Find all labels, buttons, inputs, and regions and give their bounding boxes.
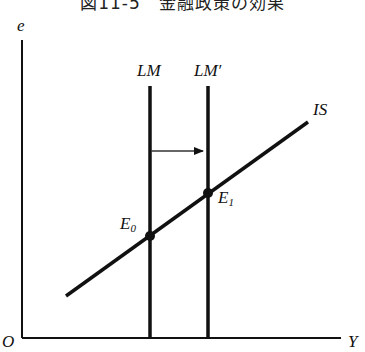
lm-label: LM: [136, 61, 161, 80]
is-curve: [66, 122, 308, 296]
islm-diagram: e Y O LM LM′ IS E0 E1: [0, 0, 365, 352]
x-axis-label: Y: [348, 332, 359, 351]
equilibrium-e1-dot: [203, 188, 213, 198]
lm-prime-label: LM′: [193, 61, 222, 80]
e1-label: E1: [217, 188, 234, 208]
y-axis-label: e: [17, 16, 25, 35]
origin-label: O: [2, 332, 14, 351]
is-label: IS: [312, 100, 328, 119]
e0-label: E0: [119, 214, 136, 234]
equilibrium-e0-dot: [145, 231, 155, 241]
